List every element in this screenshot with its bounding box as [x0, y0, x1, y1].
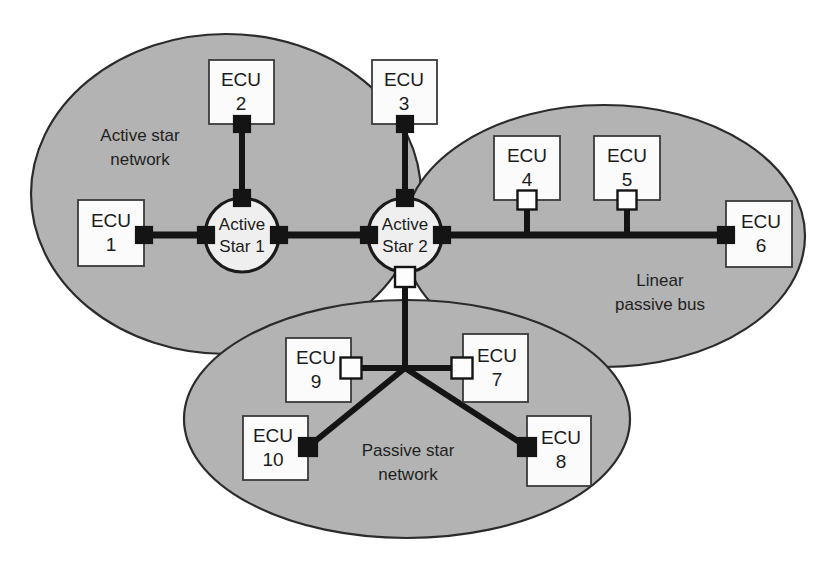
node-ecu-7-label-line2: 7 [492, 369, 503, 390]
node-ecu-8-label-line2: 8 [556, 451, 567, 472]
region-label-active-star-network-line1: Active star [100, 126, 180, 145]
region-label-passive-star-network-line2: network [378, 465, 438, 484]
connector-active-star-1-top [234, 190, 251, 207]
node-ecu-5-label-line2: 5 [622, 169, 633, 190]
connector-active-star-1-right [271, 227, 288, 244]
node-ecu-6-label-line1: ECU [741, 211, 781, 232]
node-ecu-9-label-line2: 9 [311, 371, 322, 392]
hub-active-star-1-label-line1: Active [219, 215, 265, 234]
node-ecu-3-label-line1: ECU [384, 69, 424, 90]
hub-active-star-2-label-line2: Star 2 [382, 237, 427, 256]
hub-active-star-2[interactable] [368, 198, 442, 272]
node-ecu-2-label-line2: 2 [236, 93, 247, 114]
diagram-canvas: Active star network Linear passive bus P… [0, 0, 833, 569]
connector-ecu-8 [518, 438, 537, 457]
node-ecu-3[interactable]: ECU 3 [372, 60, 437, 124]
region-label-linear-passive-bus-line2: passive bus [615, 295, 705, 314]
node-ecu-4-label-line2: 4 [522, 169, 533, 190]
hub-active-star-1[interactable] [205, 198, 279, 272]
node-ecu-9-label-line1: ECU [296, 347, 336, 368]
network-topology-diagram: Active star network Linear passive bus P… [0, 0, 833, 569]
hub-active-star-2-label-line1: Active [382, 215, 428, 234]
node-ecu-5-label-line1: ECU [607, 145, 647, 166]
connector-active-star-2-bottom [395, 267, 415, 287]
node-ecu-2[interactable]: ECU 2 [209, 60, 274, 124]
connector-active-star-1-left [198, 227, 215, 244]
node-ecu-6-label-line2: 6 [756, 235, 767, 256]
region-label-linear-passive-bus-line1: Linear [636, 271, 684, 290]
connector-ecu-7 [452, 358, 473, 379]
connector-ecu-10 [299, 438, 318, 457]
node-ecu-10-label-line1: ECU [253, 425, 293, 446]
connector-active-star-2-top [397, 190, 414, 207]
node-ecu-10-label-line2: 10 [262, 449, 283, 470]
node-ecu-1-label-line2: 1 [106, 234, 117, 255]
node-ecu-4-label-line1: ECU [507, 145, 547, 166]
connector-active-star-2-right [434, 227, 451, 244]
node-ecu-8-label-line1: ECU [541, 427, 581, 448]
node-ecu-6[interactable]: ECU 6 [726, 201, 792, 267]
connector-ecu-5 [618, 191, 637, 210]
node-ecu-2-label-line1: ECU [221, 69, 261, 90]
connector-ecu-9 [341, 358, 362, 379]
connector-ecu-4 [518, 191, 537, 210]
hub-active-star-1-label-line2: Star 1 [219, 237, 264, 256]
node-ecu-3-label-line2: 3 [399, 93, 410, 114]
node-ecu-1[interactable]: ECU 1 [78, 200, 144, 266]
node-ecu-7-label-line1: ECU [477, 345, 517, 366]
node-ecu-1-label-line1: ECU [91, 210, 131, 231]
connector-ecu-2 [234, 116, 251, 133]
region-label-passive-star-network-line1: Passive star [362, 441, 455, 460]
connector-ecu-1 [136, 227, 153, 244]
connector-active-star-2-left [361, 227, 378, 244]
connector-ecu-3 [397, 116, 414, 133]
region-label-active-star-network-line2: network [110, 150, 170, 169]
connector-ecu-6 [718, 227, 735, 244]
